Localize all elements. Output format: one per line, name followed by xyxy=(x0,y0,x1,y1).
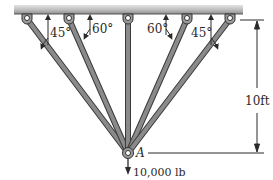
pin-icon xyxy=(22,14,32,24)
pin-icon xyxy=(225,14,235,24)
truss-diagram: 45° 60° 60° 45° A 10,000 lb 10ft xyxy=(0,0,273,180)
angle-label-45-left: 45° xyxy=(50,26,71,40)
angle-label-60-left: 60° xyxy=(92,22,113,36)
pin-icon xyxy=(182,14,192,24)
pin-supports xyxy=(22,14,235,24)
ceiling-support xyxy=(14,5,243,14)
load-label: 10,000 lb xyxy=(133,166,186,179)
joint-a xyxy=(123,148,134,159)
dimension-label: 10ft xyxy=(245,94,270,108)
load-arrow-icon xyxy=(125,159,131,175)
angle-label-45-right: 45° xyxy=(191,26,212,40)
pin-icon xyxy=(64,14,74,24)
pin-icon xyxy=(123,14,133,24)
joint-label: A xyxy=(135,146,145,160)
angle-label-60-right: 60° xyxy=(147,22,168,36)
